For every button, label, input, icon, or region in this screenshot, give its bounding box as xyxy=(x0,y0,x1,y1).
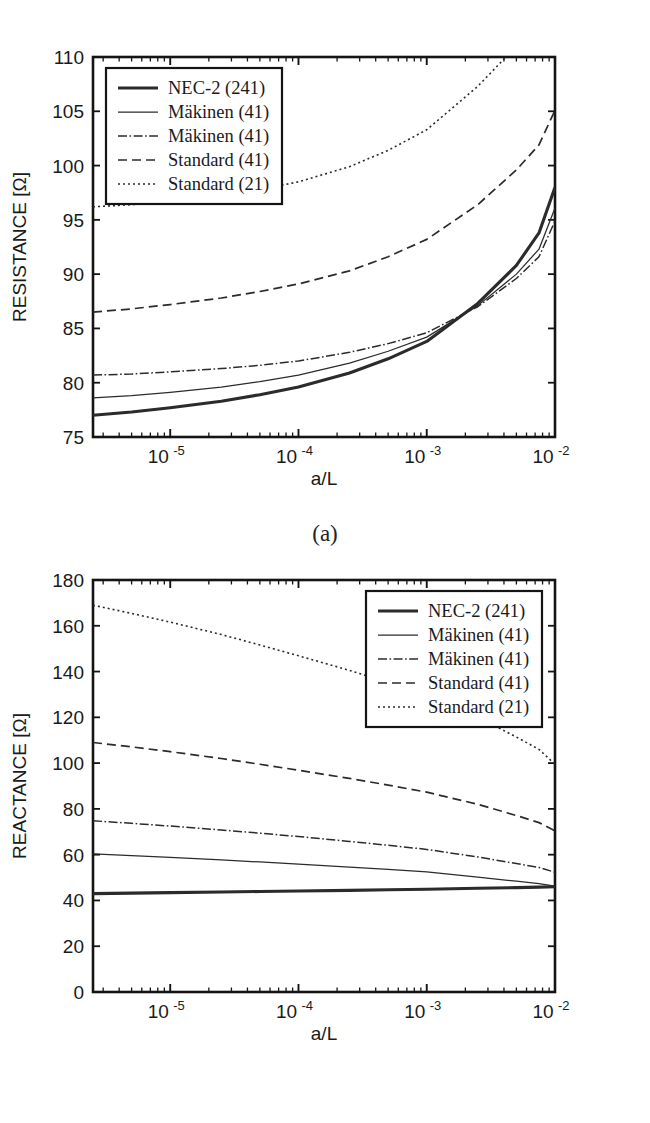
series-line-1 xyxy=(93,208,555,398)
resistance-plot: 758085909510010511010-510-410-310-2a/LRE… xyxy=(0,0,650,520)
series-line-3 xyxy=(93,743,555,831)
legend-label-3: Standard (41) xyxy=(168,150,269,171)
x-tick-label: 10 xyxy=(532,446,553,467)
y-tick-label: 105 xyxy=(52,101,84,122)
y-tick-label: 160 xyxy=(52,616,84,637)
panel-reactance: 02040608010012014016018010-510-410-310-2… xyxy=(0,560,650,1123)
x-tick-exponent: -5 xyxy=(173,443,185,458)
y-tick-label: 90 xyxy=(63,264,84,285)
x-tick-exponent: -5 xyxy=(173,998,185,1013)
series-line-2 xyxy=(93,821,555,873)
legend-label-3: Standard (41) xyxy=(428,673,529,694)
x-tick-label: 10 xyxy=(276,1001,297,1022)
x-tick-label-group: 10-4 xyxy=(276,443,313,467)
y-tick-label: 80 xyxy=(63,373,84,394)
curves-group xyxy=(93,0,555,415)
x-tick-label-group: 10-3 xyxy=(404,998,441,1022)
y-tick-label: 75 xyxy=(63,427,84,448)
y-tick-label: 140 xyxy=(52,662,84,683)
x-tick-exponent: -2 xyxy=(558,998,570,1013)
x-tick-label: 10 xyxy=(404,1001,425,1022)
x-tick-label: 10 xyxy=(404,446,425,467)
x-tick-label-group: 10-2 xyxy=(532,998,569,1022)
reactance-svg: 02040608010012014016018010-510-410-310-2… xyxy=(0,560,650,1065)
y-tick-label: 40 xyxy=(63,890,84,911)
x-tick-label: 10 xyxy=(148,446,169,467)
x-axis-title: a/L xyxy=(311,468,337,489)
y-tick-label: 180 xyxy=(52,570,84,591)
caption-a: (a) xyxy=(0,521,650,547)
legend-label-4: Standard (21) xyxy=(428,697,529,718)
x-tick-exponent: -3 xyxy=(430,443,442,458)
y-tick-label: 95 xyxy=(63,210,84,231)
legend-label-0: NEC-2 (241) xyxy=(428,601,525,622)
y-axis-title: RESISTANCE [Ω] xyxy=(9,172,30,322)
x-tick-label-group: 10-2 xyxy=(532,443,569,467)
resistance-svg: 758085909510010511010-510-410-310-2a/LRE… xyxy=(0,0,650,520)
x-tick-label-group: 10-5 xyxy=(148,443,185,467)
legend-label-0: NEC-2 (241) xyxy=(168,78,265,99)
x-tick-label: 10 xyxy=(148,1001,169,1022)
y-tick-label: 110 xyxy=(54,47,84,68)
x-tick-exponent: -4 xyxy=(301,998,313,1013)
figure-container: 758085909510010511010-510-410-310-2a/LRE… xyxy=(0,0,650,1123)
x-axis-title: a/L xyxy=(311,1023,337,1044)
x-tick-exponent: -3 xyxy=(430,998,442,1013)
legend-label-1: Mäkinen (41) xyxy=(168,102,269,123)
reactance-plot: 02040608010012014016018010-510-410-310-2… xyxy=(0,560,650,1065)
series-line-2 xyxy=(93,221,555,375)
x-tick-label: 10 xyxy=(532,1001,553,1022)
y-tick-label: 100 xyxy=(52,156,84,177)
legend-label-1: Mäkinen (41) xyxy=(428,625,529,646)
y-tick-label: 85 xyxy=(63,318,84,339)
x-tick-label-group: 10-5 xyxy=(148,998,185,1022)
x-tick-label-group: 10-4 xyxy=(276,998,313,1022)
legend-label-4: Standard (21) xyxy=(168,174,269,195)
x-tick-exponent: -4 xyxy=(301,443,313,458)
x-tick-label-group: 10-3 xyxy=(404,443,441,467)
y-tick-label: 120 xyxy=(52,707,84,728)
y-tick-label: 20 xyxy=(63,936,84,957)
y-tick-label: 0 xyxy=(73,982,84,1003)
x-tick-label: 10 xyxy=(276,446,297,467)
x-tick-exponent: -2 xyxy=(558,443,570,458)
y-tick-label: 60 xyxy=(63,845,84,866)
y-axis-title: REACTANCE [Ω] xyxy=(9,713,30,859)
y-tick-label: 80 xyxy=(63,799,84,820)
series-line-0 xyxy=(93,187,555,415)
panel-resistance: 758085909510010511010-510-410-310-2a/LRE… xyxy=(0,0,650,560)
legend-label-2: Mäkinen (41) xyxy=(168,126,269,147)
y-tick-label: 100 xyxy=(52,753,84,774)
legend-label-2: Mäkinen (41) xyxy=(428,649,529,670)
series-line-0 xyxy=(93,887,555,894)
